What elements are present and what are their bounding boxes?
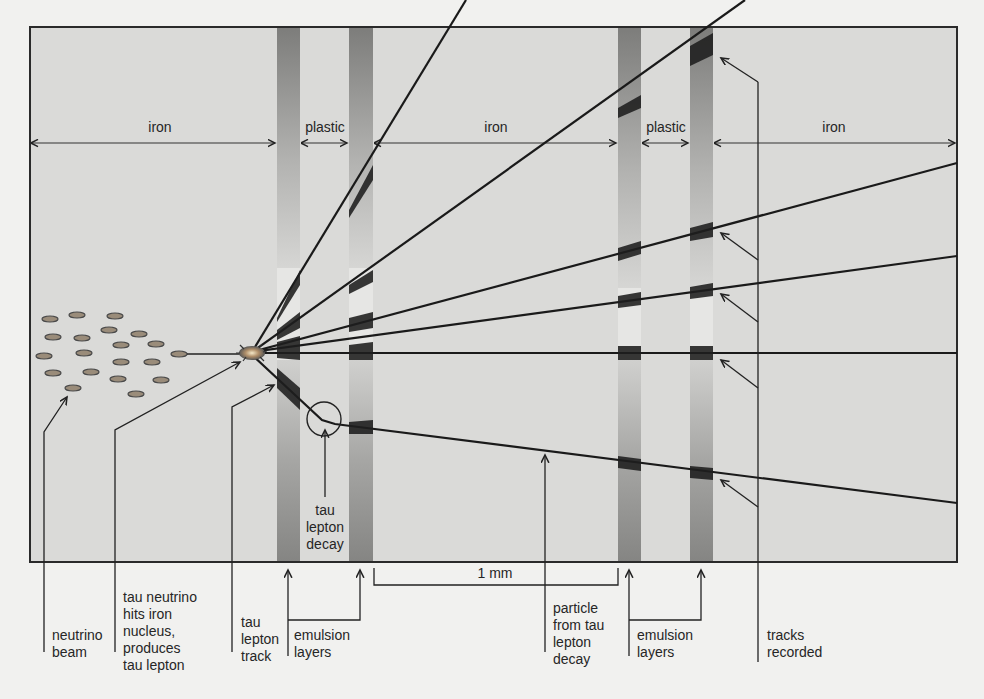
callout-emulsion-layers-1: emulsion layers: [294, 627, 350, 661]
callout-tracks-recorded: tracks recorded: [767, 627, 822, 661]
detector-chamber: [30, 27, 957, 562]
tau-lepton-decay-label: tau lepton decay: [300, 502, 350, 553]
region-label-iron-1: iron: [130, 119, 190, 136]
region-label-iron-3: iron: [804, 119, 864, 136]
region-label-plastic-1: plastic: [298, 119, 352, 136]
callout-emulsion-layers-2: emulsion layers: [637, 627, 693, 661]
callout-tau-lepton-track: tau lepton track: [241, 614, 279, 665]
emulsion-strip-2: [349, 28, 373, 561]
scale-label-1mm: 1 mm: [455, 565, 535, 582]
callout-particle-from-decay: particle from tau lepton decay: [553, 600, 604, 668]
callout-tau-neutrino-hits: tau neutrino hits iron nucleus, produces…: [123, 589, 197, 674]
region-label-plastic-2: plastic: [639, 119, 693, 136]
callout-neutrino-beam: neutrino beam: [52, 627, 103, 661]
region-label-iron-2: iron: [466, 119, 526, 136]
